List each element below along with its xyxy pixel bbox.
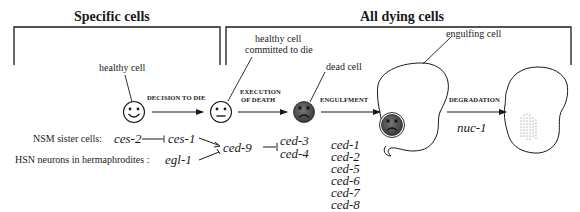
engulfed-dead-cell-icon (380, 113, 405, 138)
step-execution-line2: OF DEATH (241, 97, 275, 104)
step-degradation: DEGRADATION (449, 97, 500, 104)
label-engulfing-cell: engulfing cell (446, 29, 501, 39)
label-dead-cell: dead cell (326, 62, 362, 72)
gene-ced-4: ced-4 (280, 147, 309, 160)
step-execution-line1: EXECUTION (240, 89, 281, 96)
engulfment-gene-list: ced-1 ced-2 ced-5 ced-6 ced-7 ced-8 ced-… (331, 139, 366, 212)
gene-ced-9: ced-9 (223, 141, 252, 154)
context-hsn-neurons: HSN neurons in hermaphrodites : (15, 155, 149, 165)
bracket-specific-cells (14, 27, 220, 65)
gene-egl-1: egl-1 (165, 153, 192, 166)
step-decision-to-die: DECISION TO DIE (147, 95, 205, 102)
label-committed-line2: committed to die (245, 45, 313, 55)
degraded-remnant-dots (520, 113, 536, 139)
label-healthy-cell: healthy cell (99, 63, 145, 73)
gene-ces-1: ces-1 (168, 132, 195, 145)
gene-nuc-1: nuc-1 (457, 121, 487, 134)
dead-cell-icon (294, 102, 315, 123)
gene-ces-2: ces-2 (114, 132, 141, 145)
regulatory-arrows (142, 136, 277, 161)
degraded-cell-outline (504, 67, 567, 153)
section-title-all-dying-cells: All dying cells (360, 10, 444, 24)
gene-ced-10: ced-10 (331, 211, 366, 212)
context-nsm-sister-cells: NSM sister cells: (33, 134, 102, 144)
committed-cell-neutral-face-icon (211, 102, 232, 123)
engulfing-cell-outline (377, 63, 448, 156)
label-committed-line1: healthy cell (255, 34, 301, 44)
healthy-cell-smiley-icon (124, 102, 145, 123)
step-engulfment: ENGULFMENT (320, 97, 368, 104)
section-title-specific-cells: Specific cells (74, 10, 150, 24)
